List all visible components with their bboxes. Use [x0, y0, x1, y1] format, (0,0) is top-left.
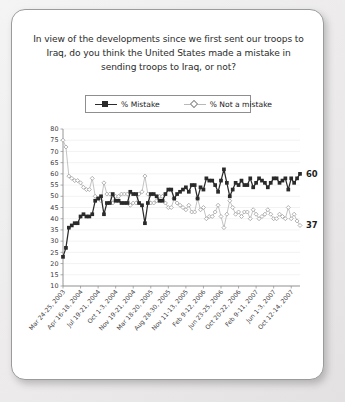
- chart-card: In view of the developments since we fir…: [11, 9, 324, 380]
- y-tick-label: 60: [50, 170, 58, 178]
- y-tick-label: 10: [50, 282, 58, 290]
- data-point-not-a-mistake: [169, 206, 173, 210]
- y-tick-label: 15: [50, 271, 58, 279]
- y-tick-label: 65: [50, 159, 58, 167]
- data-point-mistake: [245, 183, 249, 187]
- data-point-mistake: [126, 201, 130, 205]
- plot-area: 101520253035404550556065707580 Mar 24-25…: [12, 10, 324, 380]
- data-point-mistake: [210, 179, 214, 183]
- data-point-mistake: [76, 221, 80, 225]
- data-point-not-a-mistake: [286, 206, 290, 210]
- data-point-mistake: [298, 172, 302, 176]
- data-point-mistake: [222, 168, 226, 172]
- data-point-not-a-mistake: [248, 217, 252, 221]
- end-label-mistake: 60: [306, 169, 318, 179]
- data-point-mistake: [292, 181, 296, 185]
- data-point-mistake: [161, 199, 165, 203]
- data-point-not-a-mistake: [245, 210, 249, 214]
- data-point-mistake: [251, 185, 255, 189]
- data-point-mistake: [164, 192, 168, 196]
- y-tick-label: 40: [50, 215, 58, 223]
- data-point-mistake: [184, 185, 188, 189]
- data-point-mistake: [275, 176, 279, 180]
- data-point-not-a-mistake: [231, 206, 235, 210]
- y-tick-label: 25: [50, 249, 58, 257]
- data-point-not-a-mistake: [61, 138, 65, 142]
- y-tick-label: 55: [50, 181, 58, 189]
- data-point-not-a-mistake: [193, 210, 197, 214]
- data-point-mistake: [289, 176, 293, 180]
- data-point-mistake: [187, 190, 191, 194]
- data-point-mistake: [61, 255, 65, 259]
- data-point-not-a-mistake: [143, 174, 147, 178]
- data-point-mistake: [228, 194, 232, 198]
- x-axis-tick-labels: Mar 24-25, 2003Apr 16-18, 2004Jul 19-21,…: [27, 286, 294, 332]
- y-tick-label: 70: [50, 148, 58, 156]
- data-point-not-a-mistake: [90, 176, 94, 180]
- data-point-mistake: [269, 181, 273, 185]
- data-point-mistake: [248, 176, 252, 180]
- data-point-mistake: [143, 221, 147, 225]
- screenshot-root: In view of the developments since we fir…: [0, 0, 345, 402]
- data-point-mistake: [102, 212, 106, 216]
- data-point-mistake: [286, 188, 290, 192]
- data-point-mistake: [155, 194, 159, 198]
- data-point-mistake: [111, 192, 115, 196]
- data-point-mistake: [140, 203, 144, 207]
- end-label-not-a-mistake: 37: [306, 220, 318, 230]
- data-point-mistake: [219, 179, 223, 183]
- data-point-mistake: [284, 176, 288, 180]
- data-point-mistake: [263, 181, 267, 185]
- data-point-mistake: [266, 185, 270, 189]
- data-point-mistake: [196, 197, 200, 201]
- data-point-mistake: [202, 188, 206, 192]
- data-point-mistake: [134, 192, 138, 196]
- data-point-mistake: [108, 201, 112, 205]
- y-tick-label: 50: [50, 192, 58, 200]
- data-point-mistake: [90, 212, 94, 216]
- y-tick-label: 75: [50, 136, 58, 144]
- data-point-not-a-mistake: [225, 212, 229, 216]
- data-point-mistake: [237, 183, 241, 187]
- data-point-mistake: [193, 183, 197, 187]
- data-point-mistake: [99, 194, 103, 198]
- y-tick-label: 30: [50, 237, 58, 245]
- data-point-mistake: [213, 183, 217, 187]
- data-point-not-a-mistake: [64, 145, 68, 149]
- data-point-not-a-mistake: [219, 214, 223, 218]
- y-tick-label: 45: [50, 204, 58, 212]
- y-tick-label: 20: [50, 260, 58, 268]
- y-axis-ticks: 101520253035404550556065707580: [50, 125, 63, 290]
- data-point-mistake: [172, 197, 176, 201]
- data-point-mistake: [169, 188, 173, 192]
- data-point-mistake: [295, 176, 299, 180]
- data-point-mistake: [64, 246, 68, 250]
- data-point-mistake: [225, 181, 229, 185]
- data-point-not-a-mistake: [228, 199, 232, 203]
- data-point-mistake: [146, 201, 150, 205]
- y-tick-label: 80: [50, 125, 58, 133]
- data-point-not-a-mistake: [87, 188, 91, 192]
- data-point-mistake: [254, 181, 258, 185]
- data-point-mistake: [216, 190, 220, 194]
- line-chart: 101520253035404550556065707580 Mar 24-25…: [12, 10, 324, 380]
- data-point-not-a-mistake: [216, 203, 220, 207]
- y-tick-label: 35: [50, 226, 58, 234]
- data-point-mistake: [240, 179, 244, 183]
- data-point-not-a-mistake: [102, 181, 106, 185]
- data-point-mistake: [231, 188, 235, 192]
- data-point-not-a-mistake: [222, 226, 226, 230]
